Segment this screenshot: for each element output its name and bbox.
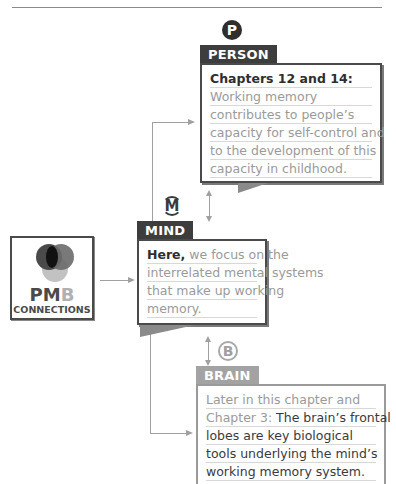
mind-label: MIND <box>137 221 193 239</box>
person-line: capacity in childhood. <box>210 160 372 178</box>
mind-line-0: we focus on the <box>185 247 288 262</box>
pmb-letters-pm: PM <box>30 284 61 305</box>
brain-line: lobes are key biological <box>206 427 376 445</box>
double-arrow-mind-brain <box>208 340 209 362</box>
brain-heading: Later in this chapter and <box>206 391 376 409</box>
connector-mind-brain-vertical <box>150 325 151 433</box>
mind-heading: Here, <box>147 247 185 262</box>
brain-badge-icon: B <box>218 341 238 361</box>
person-heading: Chapters 12 and 14: <box>210 70 372 88</box>
brain-label: BRAIN <box>196 366 259 384</box>
mind-box-shadow-tail <box>140 325 195 337</box>
arrow-down-icon <box>206 216 212 222</box>
arrow-up-icon <box>206 190 212 196</box>
mind-badge-icon: M <box>162 196 182 216</box>
connector-pmb-mind <box>100 280 128 281</box>
mind-line: interrelated mental systems <box>147 264 257 282</box>
person-line: capacity for self-control and <box>210 124 372 142</box>
mind-box: Here, we focus on the interrelated menta… <box>137 239 267 325</box>
connector-mind-person-horizontal <box>152 122 188 123</box>
mind-line: Here, we focus on the <box>147 246 257 264</box>
brain-heading-2: Chapter 3: <box>206 410 272 425</box>
pmb-connections-logo: PMB CONNECTIONS <box>10 236 94 320</box>
brain-line: tools underlying the mind’s <box>206 445 376 463</box>
arrow-right-icon <box>186 430 193 436</box>
connector-mind-brain-horizontal <box>150 433 186 434</box>
person-label: PERSON <box>200 45 277 63</box>
person-box: Chapters 12 and 14: Working memory contr… <box>200 63 382 183</box>
mind-line: memory. <box>147 300 257 318</box>
top-rule-divider <box>12 7 382 8</box>
arrow-up-icon <box>205 336 211 342</box>
double-arrow-person-mind <box>209 194 210 218</box>
brain-line-0: The brain’s frontal <box>272 410 391 425</box>
person-badge-icon: P <box>222 20 242 40</box>
brain-line: Chapter 3: The brain’s frontal <box>206 409 376 427</box>
overlap-icon <box>46 246 58 268</box>
person-box-shadow-tail <box>238 183 268 193</box>
mind-line: that make up working <box>147 282 257 300</box>
brain-line: working memory system. <box>206 463 376 481</box>
person-line: Working memory <box>210 88 372 106</box>
brain-box: Later in this chapter and Chapter 3: The… <box>196 384 386 484</box>
connector-mind-person-vertical <box>152 122 153 221</box>
arrow-right-icon <box>188 119 195 125</box>
pmb-letters-b: B <box>61 284 75 305</box>
arrow-right-icon <box>128 277 135 283</box>
person-line: contributes to people’s <box>210 106 372 124</box>
pmb-subtitle: CONNECTIONS <box>12 304 92 315</box>
pmb-letters: PMB <box>12 284 92 305</box>
person-line: to the development of this <box>210 142 372 160</box>
